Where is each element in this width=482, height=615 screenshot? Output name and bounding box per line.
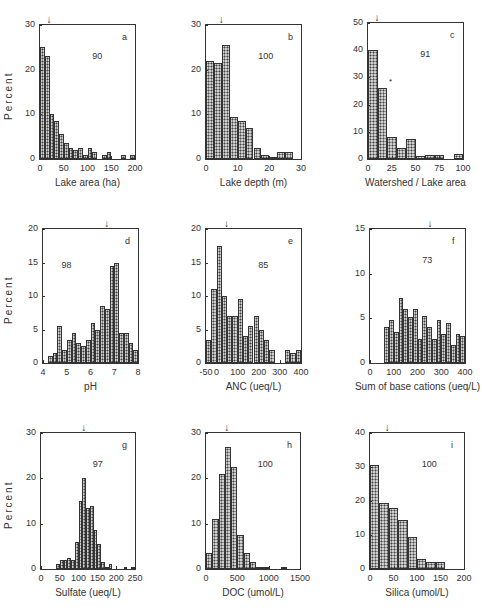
x-tick-mark <box>138 360 139 363</box>
histogram-bar <box>269 157 277 159</box>
y-tick-label: 5 <box>22 324 38 334</box>
x-axis-label: Lake area (ha) <box>19 177 156 188</box>
sample-count: 100 <box>258 51 273 61</box>
x-tick-label: 8 <box>123 367 153 377</box>
histogram-bar <box>426 562 435 569</box>
x-tick-mark <box>394 360 395 363</box>
y-axis-label: Percent <box>3 481 14 529</box>
sample-count: 85 <box>258 260 268 270</box>
x-tick-label: 100 <box>448 163 478 173</box>
y-tick-label: 5 <box>185 324 201 334</box>
x-tick-label: 0 <box>191 573 221 583</box>
x-tick-mark <box>416 156 417 159</box>
panel-letter: h <box>287 440 292 450</box>
histogram-bar <box>425 155 435 159</box>
panel-letter: e <box>288 236 293 246</box>
histogram-bar <box>214 63 222 159</box>
y-tick-label: 0 <box>185 563 201 573</box>
y-tick-mark <box>369 274 372 275</box>
histogram-bar <box>406 139 416 159</box>
y-tick-label: 10 <box>349 529 365 539</box>
x-tick-mark <box>465 360 466 363</box>
y-tick-mark <box>39 70 42 71</box>
y-tick-mark <box>205 330 208 331</box>
median-arrow-icon: ↓ <box>47 15 52 25</box>
x-tick-mark <box>41 566 42 569</box>
histogram-bar <box>254 148 262 159</box>
x-axis-label: Sum of base cations (ueq/L) <box>349 381 482 392</box>
y-tick-mark <box>205 263 208 264</box>
x-tick-mark <box>135 566 136 569</box>
y-tick-mark <box>205 569 208 570</box>
x-tick-label: 500 <box>222 573 252 583</box>
x-tick-label: 10 <box>223 163 253 173</box>
y-tick-mark <box>367 105 370 106</box>
histogram-bar <box>416 156 426 159</box>
x-tick-label: 1500 <box>285 573 315 583</box>
plot-area <box>205 24 302 160</box>
x-tick-mark <box>114 360 115 363</box>
x-tick-mark <box>43 360 44 363</box>
median-arrow-icon: ↓ <box>224 423 229 433</box>
y-tick-mark <box>42 263 45 264</box>
y-axis-label: Percent <box>3 72 14 120</box>
histogram-bar <box>92 152 97 159</box>
panel-letter: b <box>288 32 293 42</box>
sample-count: 100 <box>422 459 437 469</box>
sample-count: 90 <box>92 51 102 61</box>
panel-letter: g <box>122 440 127 450</box>
y-tick-mark <box>39 25 42 26</box>
y-tick-label: 10 <box>185 518 201 528</box>
y-tick-label: 50 <box>347 17 363 27</box>
x-tick-mark <box>441 566 442 569</box>
x-tick-label: 250 <box>120 573 150 583</box>
plot-area <box>42 228 139 364</box>
histogram-bar <box>109 564 113 569</box>
median-arrow-icon: ↓ <box>224 219 229 229</box>
histogram-bar <box>121 155 126 159</box>
y-tick-mark <box>367 50 370 51</box>
y-tick-label: 0 <box>349 563 365 573</box>
x-tick-label: 200 <box>120 163 150 173</box>
plot-area <box>40 432 136 570</box>
median-arrow-icon: ↓ <box>385 423 390 433</box>
histogram-bar <box>281 567 287 569</box>
y-tick-label: 20 <box>347 99 363 109</box>
y-tick-mark <box>205 296 208 297</box>
y-tick-mark <box>205 25 208 26</box>
y-axis-label: Percent <box>3 276 14 324</box>
y-tick-mark <box>367 77 370 78</box>
histogram-bar <box>397 148 407 159</box>
x-axis-label: DOC (umol/L) <box>185 587 321 598</box>
panel-letter: i <box>451 440 453 450</box>
y-tick-mark <box>42 363 45 364</box>
median-arrow-icon: ↓ <box>219 15 224 25</box>
median-arrow-icon: ↓ <box>81 423 86 433</box>
y-tick-label: 30 <box>349 461 365 471</box>
histogram-bar <box>389 508 398 569</box>
y-tick-label: 30 <box>185 427 201 437</box>
panel-letter: f <box>452 236 455 246</box>
sample-count: 73 <box>422 255 432 265</box>
y-tick-mark <box>205 363 208 364</box>
x-tick-mark <box>79 566 80 569</box>
y-tick-label: 30 <box>185 19 201 29</box>
y-tick-mark <box>369 501 372 502</box>
x-tick-mark <box>439 156 440 159</box>
x-tick-mark <box>464 566 465 569</box>
sample-count: 98 <box>61 260 71 270</box>
y-tick-mark <box>205 159 208 160</box>
histogram-bar <box>285 152 293 159</box>
y-tick-mark <box>205 524 208 525</box>
x-tick-mark <box>463 156 464 159</box>
panel-letter: d <box>125 236 130 246</box>
y-tick-mark <box>42 296 45 297</box>
x-tick-mark <box>418 360 419 363</box>
y-tick-mark <box>39 159 42 160</box>
x-tick-mark <box>217 360 218 363</box>
histogram-bar <box>222 45 230 159</box>
panel-letter: a <box>122 32 127 42</box>
x-tick-mark <box>206 566 207 569</box>
y-tick-mark <box>205 229 208 230</box>
x-tick-label: 20 <box>254 163 284 173</box>
